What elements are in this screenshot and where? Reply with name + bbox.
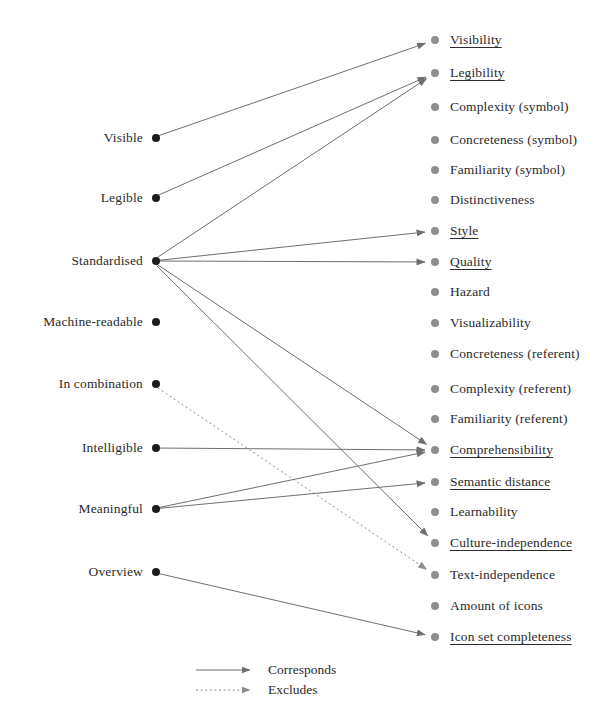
legend-label: Excludes bbox=[254, 683, 318, 697]
criterion-label: Text-independence bbox=[439, 568, 555, 582]
criterion-bullet-icon bbox=[431, 103, 439, 111]
criterion-label: Style bbox=[439, 224, 479, 238]
edge-in-combination-to-text-independence bbox=[158, 388, 427, 569]
requirement-label: In combination bbox=[59, 377, 152, 391]
criterion-label: Familiarity (symbol) bbox=[439, 163, 565, 177]
requirement-label: Machine-readable bbox=[43, 315, 152, 329]
edge-legible-to-legibility bbox=[158, 77, 425, 195]
criterion-label: Semantic distance bbox=[439, 475, 550, 489]
edge-overview-to-icon-set-completeness bbox=[159, 574, 425, 635]
criterion-bullet-icon bbox=[431, 227, 439, 235]
criterion-bullet-icon bbox=[431, 415, 439, 423]
criterion-label: Legibility bbox=[439, 66, 505, 80]
criterion-bullet-icon bbox=[431, 446, 439, 454]
edge-intelligible-to-comprehensibility bbox=[159, 448, 425, 450]
requirement-bullet-icon bbox=[152, 568, 160, 576]
criterion-label: Hazard bbox=[439, 285, 490, 299]
criterion-label: Concreteness (referent) bbox=[439, 347, 580, 361]
requirement-label: Standardised bbox=[71, 254, 152, 268]
edge-meaningful-to-semantic-distance bbox=[159, 483, 425, 508]
criterion-bullet-icon bbox=[431, 633, 439, 641]
requirement-bullet-icon bbox=[152, 444, 160, 452]
requirement-bullet-icon bbox=[152, 257, 160, 265]
criterion-bullet-icon bbox=[431, 319, 439, 327]
edge-standardised-to-comprehensibility bbox=[158, 265, 427, 445]
criterion-bullet-icon bbox=[431, 166, 439, 174]
criterion-bullet-icon bbox=[431, 385, 439, 393]
criterion-bullet-icon bbox=[431, 136, 439, 144]
criterion-label: Quality bbox=[439, 255, 492, 269]
criterion-bullet-icon bbox=[431, 69, 439, 77]
criterion-label: Icon set completeness bbox=[439, 630, 572, 644]
requirement-label: Visible bbox=[104, 131, 152, 145]
legend-arrow-icon-corresponds bbox=[196, 664, 254, 676]
requirement-label: Legible bbox=[101, 191, 152, 205]
legend-label: Corresponds bbox=[254, 663, 336, 677]
criterion-bullet-icon bbox=[431, 350, 439, 358]
criterion-bullet-icon bbox=[431, 36, 439, 44]
criterion-bullet-icon bbox=[431, 602, 439, 610]
requirement-bullet-icon bbox=[152, 134, 160, 142]
criterion-label: Distinctiveness bbox=[439, 193, 535, 207]
edge-standardised-to-legibility bbox=[158, 79, 427, 258]
legend: CorrespondsExcludes bbox=[196, 658, 426, 704]
requirement-label: Meaningful bbox=[79, 502, 153, 516]
criterion-label: Amount of icons bbox=[439, 599, 543, 613]
criterion-label: Visualizability bbox=[439, 316, 531, 330]
criterion-label: Visibility bbox=[439, 33, 502, 47]
requirement-bullet-icon bbox=[152, 194, 160, 202]
criterion-bullet-icon bbox=[431, 258, 439, 266]
criterion-label: Culture-independence bbox=[439, 536, 572, 550]
legend-item-excludes: Excludes bbox=[196, 678, 318, 702]
edge-visible-to-visibility bbox=[159, 43, 426, 135]
criterion-label: Concreteness (symbol) bbox=[439, 133, 577, 147]
criterion-bullet-icon bbox=[431, 478, 439, 486]
criterion-label: Complexity (referent) bbox=[439, 382, 571, 396]
legend-arrow-icon-excludes bbox=[196, 684, 254, 696]
requirement-bullet-icon bbox=[152, 505, 160, 513]
criterion-label: Learnability bbox=[439, 505, 518, 519]
edge-meaningful-to-comprehensibility bbox=[159, 452, 425, 508]
diagram-canvas: VisibleLegibleStandardisedMachine-readab… bbox=[0, 0, 611, 721]
criterion-bullet-icon bbox=[431, 288, 439, 296]
requirement-label: Overview bbox=[89, 565, 152, 579]
criterion-label: Familiarity (referent) bbox=[439, 412, 568, 426]
criterion-bullet-icon bbox=[431, 508, 439, 516]
edge-standardised-to-culture-independence bbox=[157, 266, 428, 536]
requirement-label: Intelligible bbox=[82, 441, 152, 455]
requirement-bullet-icon bbox=[152, 380, 160, 388]
requirement-bullet-icon bbox=[152, 318, 160, 326]
criterion-label: Comprehensibility bbox=[439, 443, 553, 457]
criterion-label: Complexity (symbol) bbox=[439, 100, 569, 114]
criterion-bullet-icon bbox=[431, 539, 439, 547]
criterion-bullet-icon bbox=[431, 196, 439, 204]
edge-standardised-to-style bbox=[159, 232, 425, 260]
criterion-bullet-icon bbox=[431, 571, 439, 579]
edge-standardised-to-quality bbox=[159, 261, 425, 262]
